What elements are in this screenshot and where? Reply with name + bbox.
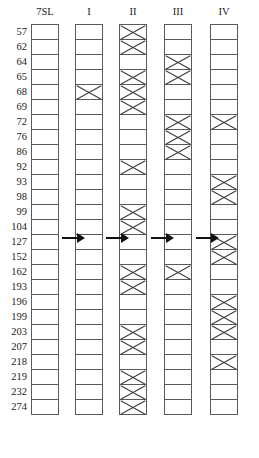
grid-cell-marked — [165, 130, 191, 145]
column-iii: III — [164, 24, 192, 415]
grid-cell-empty — [211, 340, 237, 355]
grid-cell-empty — [120, 115, 146, 130]
arrow-7sl-to-i — [62, 233, 86, 243]
row-label-axis: 5762646568697276869293989910412715216219… — [0, 24, 30, 414]
grid-cell-empty — [76, 70, 102, 85]
grid-cell-marked — [120, 340, 146, 355]
grid-cell-empty — [120, 130, 146, 145]
grid-cell-marked — [211, 115, 237, 130]
column-header-iii: III — [173, 7, 184, 18]
arrow-i-to-ii — [106, 233, 130, 243]
grid-cell-empty — [165, 280, 191, 295]
grid-cell-marked — [211, 190, 237, 205]
grid-cell-empty — [76, 100, 102, 115]
grid-cell-empty — [32, 340, 58, 355]
grid-cell-empty — [120, 145, 146, 160]
row-label: 162 — [0, 264, 30, 279]
grid-cell-marked — [120, 205, 146, 220]
grid-cell-empty — [32, 265, 58, 280]
arrow-head — [166, 233, 174, 243]
figure-canvas: 5762646568697276869293989910412715216219… — [0, 0, 259, 458]
row-label: 274 — [0, 399, 30, 414]
column-i: I — [75, 24, 103, 415]
grid-cell-empty — [32, 220, 58, 235]
column-cells-iii — [164, 24, 192, 415]
grid-cell-empty — [76, 40, 102, 55]
grid-cell-empty — [32, 130, 58, 145]
grid-cell-empty — [120, 175, 146, 190]
row-label: 86 — [0, 144, 30, 159]
grid-cell-empty — [211, 160, 237, 175]
row-label: 69 — [0, 99, 30, 114]
grid-cell-marked — [165, 70, 191, 85]
grid-cell-marked — [211, 250, 237, 265]
grid-cell-empty — [76, 310, 102, 325]
grid-cell-empty — [76, 190, 102, 205]
grid-cell-empty — [165, 100, 191, 115]
grid-cell-empty — [211, 100, 237, 115]
grid-cell-marked — [165, 145, 191, 160]
grid-cell-empty — [76, 355, 102, 370]
grid-cell-empty — [165, 85, 191, 100]
grid-cell-marked — [76, 85, 102, 100]
grid-cell-empty — [32, 295, 58, 310]
grid-cell-empty — [165, 160, 191, 175]
grid-cell-marked — [120, 40, 146, 55]
grid-cell-empty — [120, 295, 146, 310]
grid-cell-marked — [211, 355, 237, 370]
grid-cell-empty — [211, 70, 237, 85]
grid-cell-empty — [120, 355, 146, 370]
column-header-i: I — [87, 7, 91, 18]
grid-cell-empty — [211, 25, 237, 40]
grid-cell-empty — [165, 25, 191, 40]
grid-cell-empty — [211, 370, 237, 385]
grid-cell-marked — [120, 325, 146, 340]
grid-cell-empty — [211, 130, 237, 145]
grid-cell-empty — [32, 190, 58, 205]
row-label: 203 — [0, 324, 30, 339]
row-label: 199 — [0, 309, 30, 324]
row-label: 68 — [0, 84, 30, 99]
column-header-ii: II — [130, 7, 137, 18]
grid-cell-empty — [32, 145, 58, 160]
grid-cell-empty — [32, 25, 58, 40]
column-cells-7sl — [31, 24, 59, 415]
column-cells-iv — [210, 24, 238, 415]
grid-cell-empty — [165, 40, 191, 55]
row-label: 218 — [0, 354, 30, 369]
grid-cell-empty — [120, 310, 146, 325]
grid-cell-marked — [120, 85, 146, 100]
grid-cell-empty — [32, 385, 58, 400]
grid-cell-empty — [32, 160, 58, 175]
grid-cell-empty — [165, 295, 191, 310]
grid-cell-empty — [32, 310, 58, 325]
grid-cell-empty — [165, 175, 191, 190]
grid-cell-empty — [32, 280, 58, 295]
grid-cell-empty — [76, 25, 102, 40]
arrow-iii-to-iv — [196, 233, 220, 243]
grid-cell-marked — [165, 115, 191, 130]
grid-cell-empty — [165, 370, 191, 385]
grid-cell-empty — [211, 85, 237, 100]
row-label: 127 — [0, 234, 30, 249]
column-ii: II — [119, 24, 147, 415]
grid-cell-empty — [211, 40, 237, 55]
row-label: 65 — [0, 69, 30, 84]
grid-cell-empty — [32, 355, 58, 370]
grid-cell-empty — [165, 325, 191, 340]
grid-cell-empty — [76, 325, 102, 340]
row-label: 196 — [0, 294, 30, 309]
grid-cell-marked — [211, 325, 237, 340]
grid-cell-empty — [165, 250, 191, 265]
arrow-head — [121, 233, 129, 243]
grid-cell-empty — [32, 250, 58, 265]
grid-cell-marked — [120, 25, 146, 40]
grid-cell-empty — [32, 325, 58, 340]
row-label: 57 — [0, 24, 30, 39]
arrow-ii-to-iii — [151, 233, 175, 243]
row-label: 93 — [0, 174, 30, 189]
grid-cell-empty — [32, 40, 58, 55]
row-label: 104 — [0, 219, 30, 234]
grid-cell-empty — [211, 205, 237, 220]
column-cells-i — [75, 24, 103, 415]
